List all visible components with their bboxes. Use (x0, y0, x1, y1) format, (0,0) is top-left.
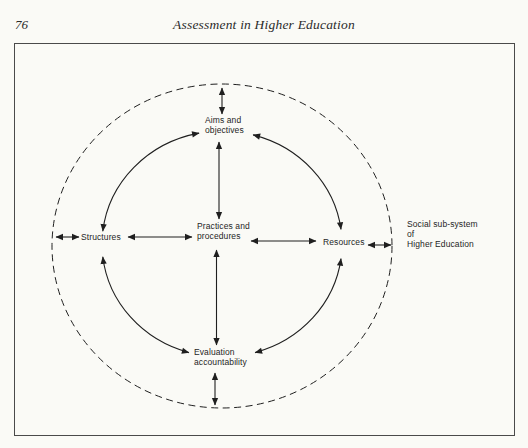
node-label-aims: Aims and objectives (205, 115, 244, 135)
node-label-resources: Resources (323, 237, 365, 247)
node-label-aims-line2: objectives (205, 125, 244, 135)
node-label-aims-line1: Aims and (205, 115, 244, 125)
curved-double-arrow-evaluation-structures (103, 257, 189, 353)
node-label-structures-text: Structures (81, 232, 121, 242)
label-social-subsystem-line3: Higher Education (407, 239, 478, 249)
label-social-subsystem-line2: of (407, 229, 478, 239)
node-label-practices-line1: Practices and (197, 221, 250, 231)
node-label-structures: Structures (81, 232, 121, 242)
node-label-resources-text: Resources (323, 237, 365, 247)
label-social-subsystem-line1: Social sub-system (407, 219, 478, 229)
node-label-practices-line2: procedures (197, 231, 250, 241)
node-label-evaluation-line2: accountability (194, 357, 247, 367)
curved-double-arrow-structures-aims (103, 133, 199, 231)
label-social-subsystem: Social sub-system of Higher Education (407, 219, 478, 249)
node-label-evaluation-line1: Evaluation (194, 347, 247, 357)
book-page: 76 Assessment in Higher Education Aims a… (0, 0, 528, 448)
curved-double-arrow-aims-resources (253, 135, 341, 229)
node-label-evaluation: Evaluation accountability (194, 347, 247, 367)
node-label-practices: Practices and procedures (197, 221, 250, 241)
curved-double-arrow-resources-evaluation (255, 259, 341, 353)
